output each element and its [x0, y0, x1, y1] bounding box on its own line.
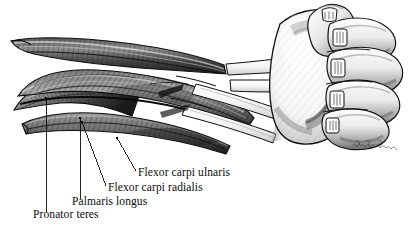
thumb-nail: [322, 8, 337, 22]
finger-nail-middle: [331, 59, 345, 77]
clenched-fist: [268, 4, 403, 149]
label-pronator-teres: Pronator teres: [33, 208, 99, 221]
label-flexor-carpi-radialis: Flexor carpi radialis: [108, 181, 203, 194]
label-flexor-carpi-ulnaris: Flexor carpi ulnaris: [138, 166, 230, 179]
finger-nail-index: [333, 29, 347, 46]
finger-nail-ring: [330, 91, 344, 108]
label-palmaris-longus: Palmaris longus: [72, 195, 147, 208]
forearm-illustration-artwork: [0, 0, 417, 231]
finger-nail-little: [326, 118, 339, 133]
anatomical-illustration-figure: Flexor carpi ulnaris Flexor carpi radial…: [0, 0, 417, 231]
